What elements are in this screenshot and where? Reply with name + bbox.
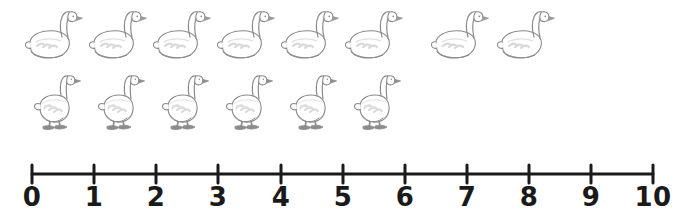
worksheet-canvas: 012345678910	[0, 0, 677, 218]
swimming-goose-icon	[280, 4, 340, 68]
swimming-goose-5	[280, 4, 340, 68]
swimming-goose-7	[430, 4, 490, 68]
swimming-goose-4	[216, 4, 276, 68]
standing-goose-6	[350, 72, 406, 138]
number-line-label-2: 2	[132, 182, 180, 212]
number-line-label-10: 10	[629, 182, 677, 212]
standing-goose-icon	[30, 72, 86, 138]
swimming-goose-icon	[152, 4, 212, 68]
number-line-label-6: 6	[381, 182, 429, 212]
number-line-label-5: 5	[319, 182, 367, 212]
number-line-label-0: 0	[8, 182, 56, 212]
swimming-goose-icon	[216, 4, 276, 68]
standing-goose-icon	[94, 72, 150, 138]
swimming-goose-icon	[344, 4, 404, 68]
swimming-goose-8	[496, 4, 556, 68]
standing-goose-4	[222, 72, 278, 138]
standing-goose-icon	[158, 72, 214, 138]
standing-goose-icon	[222, 72, 278, 138]
standing-goose-icon	[286, 72, 342, 138]
number-line-label-1: 1	[70, 182, 118, 212]
number-line-label-4: 4	[257, 182, 305, 212]
swimming-goose-icon	[430, 4, 490, 68]
swimming-goose-6	[344, 4, 404, 68]
number-line-label-8: 8	[505, 182, 553, 212]
standing-goose-5	[286, 72, 342, 138]
swimming-goose-3	[152, 4, 212, 68]
swimming-goose-icon	[88, 4, 148, 68]
swimming-goose-2	[88, 4, 148, 68]
standing-geese-row	[0, 72, 677, 140]
swimming-goose-1	[24, 4, 84, 68]
standing-goose-1	[30, 72, 86, 138]
number-line-label-3: 3	[194, 182, 242, 212]
standing-goose-2	[94, 72, 150, 138]
standing-goose-icon	[350, 72, 406, 138]
number-line-label-9: 9	[567, 182, 615, 212]
number-line-label-7: 7	[443, 182, 491, 212]
swimming-geese-row	[0, 4, 677, 72]
swimming-goose-icon	[496, 4, 556, 68]
standing-goose-3	[158, 72, 214, 138]
swimming-goose-icon	[24, 4, 84, 68]
